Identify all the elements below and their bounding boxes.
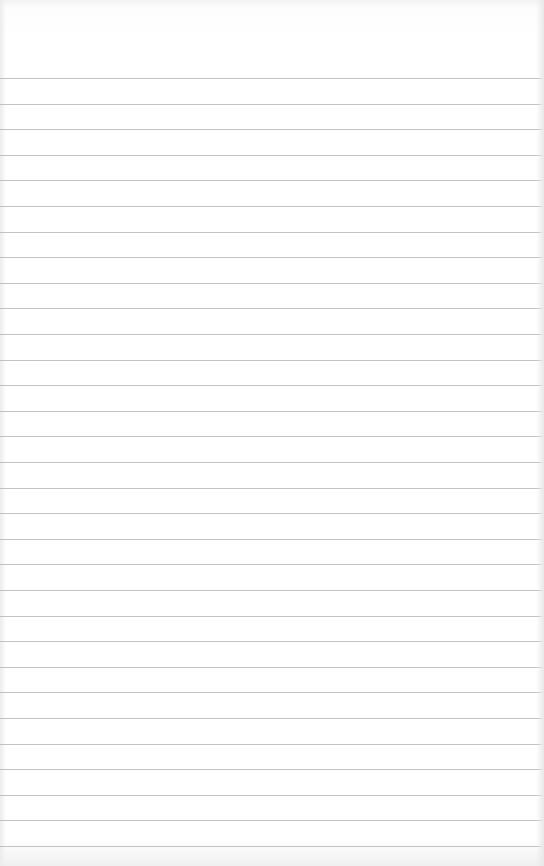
ruled-line bbox=[0, 616, 542, 617]
ruled-line bbox=[0, 411, 542, 412]
ruled-line bbox=[0, 795, 542, 796]
lined-paper bbox=[0, 0, 544, 866]
ruled-line bbox=[0, 360, 542, 361]
ruled-line bbox=[0, 283, 542, 284]
ruled-line bbox=[0, 257, 542, 258]
ruled-line bbox=[0, 180, 542, 181]
ruled-line bbox=[0, 232, 542, 233]
ruled-line bbox=[0, 334, 542, 335]
ruled-line bbox=[0, 436, 542, 437]
ruled-line bbox=[0, 539, 542, 540]
ruled-line bbox=[0, 641, 542, 642]
ruled-line bbox=[0, 104, 542, 105]
ruled-line bbox=[0, 513, 542, 514]
ruled-line bbox=[0, 590, 542, 591]
ruled-line bbox=[0, 692, 542, 693]
ruled-line bbox=[0, 564, 542, 565]
ruled-line bbox=[0, 129, 542, 130]
ruled-line bbox=[0, 308, 542, 309]
ruled-line bbox=[0, 206, 542, 207]
ruled-line bbox=[0, 846, 542, 847]
ruled-line bbox=[0, 385, 542, 386]
ruled-line bbox=[0, 769, 542, 770]
ruled-line bbox=[0, 718, 542, 719]
ruled-line bbox=[0, 820, 542, 821]
ruled-line bbox=[0, 488, 542, 489]
ruled-line bbox=[0, 155, 542, 156]
ruled-line bbox=[0, 744, 542, 745]
ruled-line bbox=[0, 78, 542, 79]
ruled-line bbox=[0, 667, 542, 668]
ruled-line bbox=[0, 462, 542, 463]
